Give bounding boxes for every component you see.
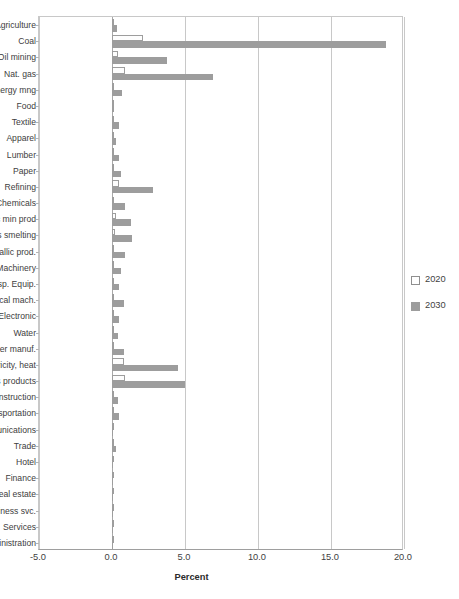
bar-2030 (112, 284, 119, 290)
category-label: Oil mining (0, 53, 36, 62)
y-axis-tick (36, 316, 39, 317)
bar-row: Business svc. (39, 502, 402, 518)
bar-row: Metals smelting (39, 227, 402, 243)
bar-row: Transp. Equip. (39, 276, 402, 292)
y-axis-tick (36, 171, 39, 172)
x-axis-title: Percent (0, 572, 459, 582)
bar-row: Metallic prod. (39, 244, 402, 260)
legend-item[interactable]: 2020 (411, 271, 459, 289)
x-axis-title-label: Percent (174, 572, 208, 582)
bar-row: Oil mining (39, 49, 402, 65)
bar-row: Gas products (39, 373, 402, 389)
y-axis-tick (36, 397, 39, 398)
category-label: Electronic (0, 312, 36, 321)
x-tick-label: 20.0 (394, 552, 412, 562)
bar-2030 (112, 268, 121, 274)
bar-row: Water (39, 324, 402, 340)
bar-row: Other manuf. (39, 341, 402, 357)
y-axis-tick (36, 203, 39, 204)
bar-row: Chemicals (39, 195, 402, 211)
category-label: Nat. gas (4, 69, 36, 78)
x-axis-ticks: -5.00.05.010.015.020.0 (0, 552, 459, 568)
category-label: Communications (0, 425, 36, 434)
y-axis-tick (36, 478, 39, 479)
y-axis-tick (36, 511, 39, 512)
category-label: Other manuf. (0, 344, 36, 353)
y-axis-tick (36, 462, 39, 463)
bar-row: Coal (39, 33, 402, 49)
bar-2030 (112, 381, 185, 387)
category-label: Administration (0, 539, 36, 548)
bar-row: Construction (39, 389, 402, 405)
bar-row: Textile (39, 114, 402, 130)
bar-2030 (112, 235, 132, 241)
bar-2030 (112, 349, 124, 355)
bar-row: Electricity, heat (39, 357, 402, 373)
bar-row: Services (39, 519, 402, 535)
bar-2030 (112, 462, 113, 468)
y-axis-tick (36, 25, 39, 26)
category-label: Food (16, 102, 36, 111)
bar-row: Trade (39, 438, 402, 454)
legend-item[interactable]: 2030 (411, 297, 459, 315)
y-axis-tick (36, 333, 39, 334)
bar-row: Transportation (39, 405, 402, 421)
y-axis-tick (36, 430, 39, 431)
bar-row: Machinery (39, 260, 402, 276)
category-label: Paper (13, 166, 36, 175)
bar-row: Communications (39, 422, 402, 438)
y-axis-tick (36, 494, 39, 495)
x-tick-label: 0.0 (105, 552, 118, 562)
bar-row: Electronic (39, 308, 402, 324)
category-label: Electrical mach. (0, 296, 36, 305)
category-label: Nonmetallic min prod (0, 215, 36, 224)
x-tick-label: -5.0 (30, 552, 46, 562)
category-label: Nonenergy mng (0, 86, 36, 95)
category-label: Chemicals (0, 199, 36, 208)
y-axis-tick (36, 446, 39, 447)
bar-row: Electrical mach. (39, 292, 402, 308)
y-axis-tick (36, 219, 39, 220)
category-label: Transp. Equip. (0, 280, 36, 289)
y-axis-tick (36, 122, 39, 123)
y-axis-tick (36, 284, 39, 285)
y-axis-tick (36, 90, 39, 91)
category-label: Business svc. (0, 506, 36, 515)
bar-2030 (112, 74, 213, 80)
y-axis-tick (36, 300, 39, 301)
category-label: Construction (0, 393, 36, 402)
bar-2030 (112, 122, 119, 128)
bar-2030 (112, 494, 113, 500)
y-axis-tick (36, 413, 39, 414)
y-axis-tick (36, 527, 39, 528)
y-axis-tick (36, 155, 39, 156)
y-axis-tick (36, 381, 39, 382)
category-label: Textile (12, 118, 36, 127)
x-tick-label: 15.0 (321, 552, 339, 562)
bar-row: Lumber (39, 146, 402, 162)
bar-2030 (112, 511, 113, 517)
x-tick-label: 10.0 (248, 552, 266, 562)
bar-row: Nonenergy mng (39, 82, 402, 98)
category-label: Apparel (6, 134, 36, 143)
gridline (404, 17, 405, 549)
category-label: Lumber (7, 150, 36, 159)
category-label: Agriculture (0, 21, 36, 30)
chart-legend: 20202030 (411, 271, 459, 323)
bar-row: Hotel (39, 454, 402, 470)
bar-2030 (112, 106, 114, 112)
y-axis-tick (36, 41, 39, 42)
bar-row: Real estate (39, 486, 402, 502)
y-axis-tick (36, 365, 39, 366)
y-axis-tick (36, 543, 39, 544)
category-label: Metals smelting (0, 231, 36, 240)
bar-row: Nat. gas (39, 66, 402, 82)
category-label: Water (13, 328, 36, 337)
bar-row: Paper (39, 163, 402, 179)
bar-2030 (112, 90, 122, 96)
bar-2030 (112, 365, 178, 371)
bar-2030 (112, 155, 119, 161)
y-axis-tick (36, 349, 39, 350)
y-axis-tick (36, 268, 39, 269)
legend-label: 2030 (425, 301, 446, 310)
